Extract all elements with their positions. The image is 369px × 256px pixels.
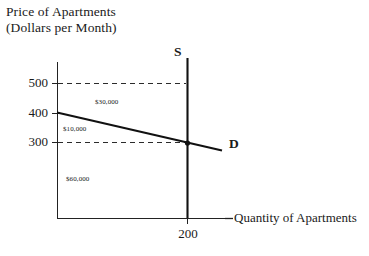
supply-curve-label: S bbox=[174, 45, 182, 59]
area-label-10000: $10,000 bbox=[63, 125, 86, 133]
y-tick-label-400: 400 bbox=[22, 106, 48, 120]
y-tick-label-500: 500 bbox=[22, 76, 48, 90]
demand-curve-label: D bbox=[229, 137, 239, 151]
area-label-30000: $30,000 bbox=[95, 98, 118, 106]
area-label-60000: $60,000 bbox=[66, 175, 89, 183]
supply-demand-chart: Price of Apartments (Dollars per Month) … bbox=[0, 0, 369, 256]
x-axis-title: Quantity of Apartments bbox=[234, 211, 357, 225]
equilibrium-point bbox=[185, 140, 190, 145]
y-tick-label-300: 300 bbox=[22, 135, 48, 149]
x-tick-label-200: 200 bbox=[173, 227, 203, 241]
